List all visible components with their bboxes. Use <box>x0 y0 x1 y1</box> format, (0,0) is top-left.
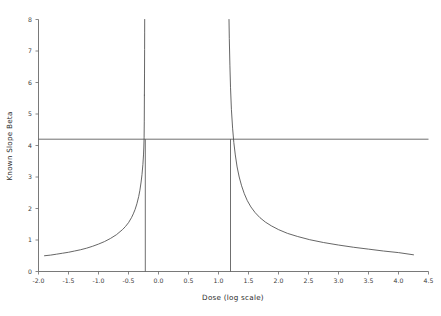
plot-series-group <box>39 20 429 272</box>
x-axis-tick-labels: -2.0 -1.5 -1.0 -0.5 0.0 0.5 1.0 1.5 2.0 … <box>32 277 433 284</box>
x-tick-label-0: -2.0 <box>32 277 44 284</box>
x-tick-label-1: -1.5 <box>62 277 74 284</box>
y-tick-label-2: 2 <box>28 205 32 212</box>
x-tick-label-7: 1.5 <box>244 277 254 284</box>
y-tick-label-3: 3 <box>28 173 32 180</box>
x-tick-label-13: 4.5 <box>424 277 434 284</box>
y-tick-label-7: 7 <box>28 47 32 54</box>
x-tick-label-8: 2.0 <box>274 277 284 284</box>
x-tick-label-2: -1.0 <box>92 277 104 284</box>
x-axis-ticks <box>39 272 429 275</box>
x-tick-label-9: 2.5 <box>304 277 314 284</box>
chart-canvas: 0 1 2 3 4 5 6 7 8 -2.0 <box>0 0 441 316</box>
x-tick-label-11: 3.5 <box>364 277 374 284</box>
x-tick-label-10: 3.0 <box>334 277 344 284</box>
y-tick-label-0: 0 <box>28 268 32 275</box>
curve-right-branch <box>229 20 414 255</box>
x-tick-label-12: 4.0 <box>394 277 404 284</box>
y-axis-title: Known Slope Beta <box>5 111 14 180</box>
x-tick-label-5: 0.5 <box>184 277 194 284</box>
x-axis-title: Dose (log scale) <box>202 293 264 302</box>
y-tick-label-1: 1 <box>28 236 32 243</box>
curve-left-branch <box>45 95 145 256</box>
x-tick-label-3: -0.5 <box>122 277 134 284</box>
y-axis-tick-labels: 0 1 2 3 4 5 6 7 8 <box>28 16 32 275</box>
y-tick-label-8: 8 <box>28 16 32 23</box>
chart-figure: 0 1 2 3 4 5 6 7 8 -2.0 <box>0 0 441 316</box>
y-tick-label-5: 5 <box>28 110 32 117</box>
x-tick-label-6: 1.0 <box>214 277 224 284</box>
x-tick-label-4: 0.0 <box>154 277 164 284</box>
y-tick-label-4: 4 <box>28 142 32 149</box>
y-tick-label-6: 6 <box>28 79 32 86</box>
